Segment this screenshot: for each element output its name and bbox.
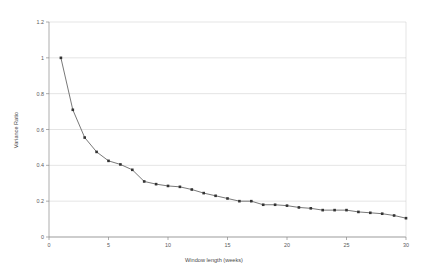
data-point-marker [131,169,134,172]
data-point-marker [345,209,348,212]
y-tick-label-1: 0.2 [37,198,45,204]
y-tick-label-6: 1.2 [37,19,45,25]
data-point-marker [298,206,301,209]
y-tick-label-4: 0.8 [37,91,45,97]
y-tick-label-5: 1 [41,55,44,61]
variance-ratio-chart: 051015202530 00.20.40.60.811.2 Window le… [0,0,429,274]
gridline-group [49,22,406,237]
data-point-marker [107,160,110,163]
data-point-marker [179,186,182,189]
data-point-marker [214,194,217,197]
data-point-marker [357,211,360,214]
x-tick-label-1: 5 [107,242,110,248]
data-point-marker [95,151,98,154]
data-point-marker [119,163,122,166]
data-point-marker [226,197,229,200]
series-line-group [61,58,406,218]
data-point-marker [405,217,408,220]
data-point-marker [393,214,396,217]
data-point-marker [143,180,146,183]
data-point-marker [250,200,253,203]
x-axis-title: Window length (weeks) [185,257,243,263]
data-point-marker [191,188,194,191]
series-line-0 [61,58,406,218]
x-tick-label-5: 25 [344,242,350,248]
data-point-marker [321,209,324,212]
data-point-marker [60,57,63,60]
data-point-marker [274,203,277,206]
x-tick-label-2: 10 [165,242,171,248]
data-point-marker [262,203,265,206]
x-tick-label-3: 15 [225,242,231,248]
y-tick-label-3: 0.6 [37,127,45,133]
data-point-marker [310,207,313,210]
chart-canvas: 051015202530 00.20.40.60.811.2 Window le… [0,0,429,274]
data-point-marker [286,204,289,207]
y-tick-label-group: 00.20.40.60.811.2 [37,19,45,240]
data-point-marker [167,185,170,188]
y-tick-label-0: 0 [41,234,44,240]
y-axis-title: Variance Ratio [13,112,19,148]
data-point-marker [238,200,241,203]
x-tick-group [49,237,406,240]
data-point-marker [333,209,336,212]
data-point-marker [155,183,158,186]
data-point-marker [83,136,86,139]
y-tick-group [46,22,49,237]
x-tick-label-4: 20 [284,242,290,248]
series-marker-group [60,57,408,220]
data-point-marker [381,212,384,215]
data-point-marker [202,192,205,195]
x-tick-label-6: 30 [403,242,409,248]
x-tick-label-group: 051015202530 [48,242,410,248]
x-tick-label-0: 0 [48,242,51,248]
data-point-marker [72,108,75,111]
y-tick-label-2: 0.4 [37,162,45,168]
data-point-marker [369,212,372,215]
